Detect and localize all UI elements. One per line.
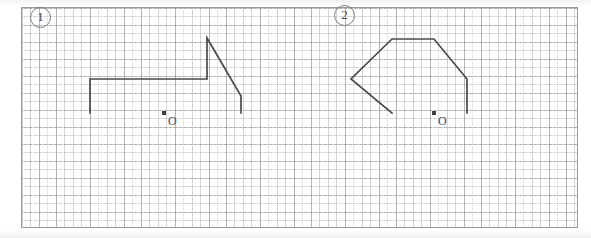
origin-dot-1	[162, 111, 166, 115]
page-edge-top	[0, 0, 591, 6]
worksheet-page: 1 2 O O	[0, 0, 591, 238]
origin-dot-2	[432, 111, 436, 115]
origin-label-1: O	[168, 115, 177, 127]
origin-label-2: O	[438, 115, 447, 127]
figure-label-two: 2	[334, 5, 355, 26]
page-edge-bottom	[0, 230, 591, 238]
graph-paper-grid	[21, 7, 578, 228]
grid-dash-overlay	[22, 8, 577, 227]
figure-label-one: 1	[30, 7, 51, 28]
